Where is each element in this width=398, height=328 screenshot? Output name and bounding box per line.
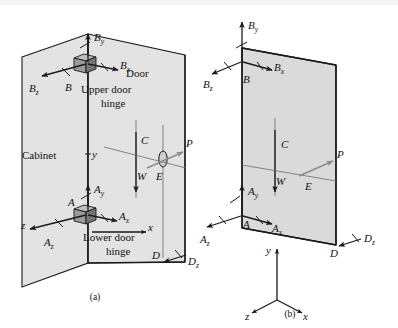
caption-b: (b) xyxy=(284,309,295,320)
label-P-a: P xyxy=(185,137,193,149)
coordinate-triad-b: y x z xyxy=(244,244,308,322)
label-axis-x-a: x xyxy=(147,221,153,233)
figure-container: By Bx Bz B Door Upper door hinge C W P E… xyxy=(0,0,398,328)
triad-z-axis-b xyxy=(252,300,277,313)
label-point-B-a: B xyxy=(65,81,72,93)
page-top-edge xyxy=(0,0,398,5)
label-C-b: C xyxy=(281,138,289,150)
label-lower-hinge-line1: Lower door xyxy=(83,231,135,243)
label-axis-z-a: z xyxy=(20,219,26,231)
diagram-a: By Bx Bz B Door Upper door hinge C W P E… xyxy=(20,31,199,303)
label-P-b: P xyxy=(336,148,344,160)
A-tick-b-1 xyxy=(230,196,240,203)
engineering-figure: By Bx Bz B Door Upper door hinge C W P E… xyxy=(0,0,398,328)
label-W-b: W xyxy=(276,175,286,187)
label-Dz-b: Dz xyxy=(363,232,375,247)
label-point-B-b: B xyxy=(243,73,250,85)
label-Az-b: Az xyxy=(199,233,210,248)
label-C-a: C xyxy=(141,134,149,146)
lower-hinge-assembly xyxy=(74,205,96,224)
label-E-a: E xyxy=(155,170,163,182)
label-door: Door xyxy=(126,67,149,79)
label-point-D-a: D xyxy=(151,249,160,261)
diagram-b: By Bx Bz B C W P E Ay Ax Az A xyxy=(199,19,375,322)
caption-a: (a) xyxy=(90,292,101,303)
force-Bz-arrow-b xyxy=(212,62,241,74)
door-bottom-edge xyxy=(88,262,185,263)
upper-hinge-assembly xyxy=(74,54,96,73)
triad-label-x-b: x xyxy=(302,310,308,322)
label-point-D-b: D xyxy=(329,247,338,259)
label-lower-hinge-line2: hinge xyxy=(106,245,131,257)
label-E-b: E xyxy=(304,180,312,192)
triad-label-y-b: y xyxy=(265,244,271,256)
label-cabinet: Cabinet xyxy=(22,149,56,161)
label-Bz-b: Bz xyxy=(203,78,213,93)
label-Dz-a: Dz xyxy=(187,255,199,270)
label-W-a: W xyxy=(137,170,147,182)
free-body-door-panel xyxy=(242,48,336,245)
label-By-b: By xyxy=(248,19,259,34)
label-axis-y-a: y xyxy=(91,148,97,160)
label-upper-hinge-line2: hinge xyxy=(101,97,126,109)
label-upper-hinge-line1: Upper door xyxy=(81,83,132,95)
triad-label-z-b: z xyxy=(244,310,250,322)
label-point-A-a: A xyxy=(67,196,75,208)
label-point-A-b: A xyxy=(242,218,250,230)
